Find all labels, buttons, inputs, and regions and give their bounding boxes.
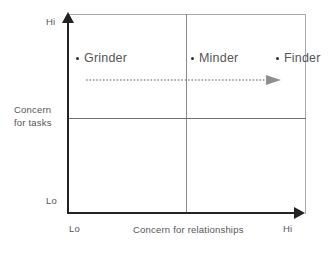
chart-frame-top-border <box>68 14 306 15</box>
data-point-minder: Minder <box>191 51 238 65</box>
y-axis-line <box>67 20 69 214</box>
x-axis-high-tick-label: Hi <box>283 223 292 234</box>
data-point-dot-icon <box>276 57 279 60</box>
y-axis-title-line1: Concern <box>14 103 52 116</box>
x-axis-arrowhead-icon <box>294 207 305 219</box>
data-point-finder: Finder <box>276 51 321 65</box>
x-axis-line <box>67 212 295 214</box>
y-axis-title-line2: for tasks <box>14 116 52 129</box>
data-point-dot-icon <box>76 57 79 60</box>
chart-frame-right-border <box>305 14 306 214</box>
data-point-label: Finder <box>284 51 321 65</box>
x-axis-title: Concern for relationships <box>133 223 244 236</box>
x-axis-low-tick-label: Lo <box>69 223 80 234</box>
progression-arrow-icon <box>86 72 282 84</box>
y-axis-high-tick-label: Hi <box>46 16 55 27</box>
data-point-label: Grinder <box>84 51 127 65</box>
data-point-grinder: Grinder <box>76 51 127 65</box>
data-point-dot-icon <box>191 57 194 60</box>
y-axis-title: Concern for tasks <box>14 103 52 129</box>
data-point-label: Minder <box>199 51 238 65</box>
y-axis-arrowhead-icon <box>62 12 74 23</box>
quadrant-divider-vertical <box>186 14 187 214</box>
quadrant-chart: Hi Lo Lo Hi Concern for tasks Concern fo… <box>0 0 335 254</box>
quadrant-divider-horizontal <box>68 118 306 119</box>
y-axis-low-tick-label: Lo <box>46 195 57 206</box>
